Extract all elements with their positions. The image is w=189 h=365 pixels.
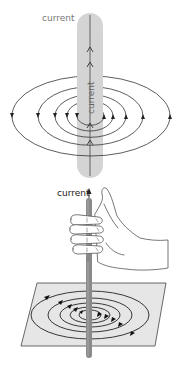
wire-current-label: current [86, 81, 96, 114]
top-panel: current current [10, 13, 172, 178]
bottom-current-label: current [57, 188, 90, 198]
bottom-panel: current [21, 188, 168, 358]
arrow-up-icon [168, 114, 172, 119]
arrow-down-icon [36, 113, 40, 118]
diagram-canvas: current current [0, 0, 189, 365]
right-hand [70, 188, 168, 270]
arrow-down-icon [10, 113, 14, 118]
arrow-up-icon [111, 114, 115, 119]
arrow-up-icon [141, 114, 145, 119]
arrow-up-icon [124, 114, 128, 119]
top-current-label: current [42, 13, 75, 23]
arrow-down-icon [53, 113, 57, 118]
field-plane [21, 283, 166, 346]
arrow-down-icon [65, 113, 69, 118]
